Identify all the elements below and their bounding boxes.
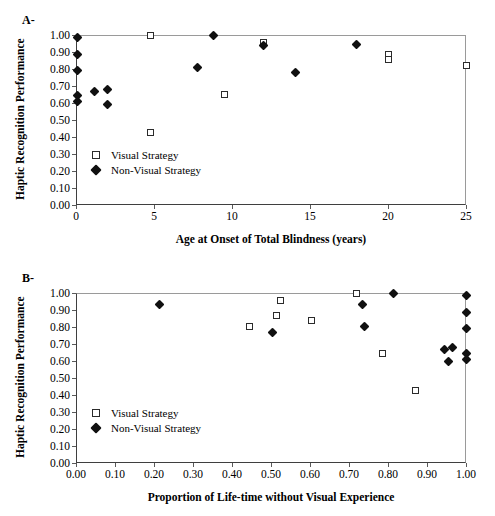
- x-tick-mark: [349, 463, 350, 467]
- x-tick-label: 1.00: [441, 469, 491, 480]
- y-tick-label: 0.20: [28, 166, 70, 176]
- panel-a: A- Haptic Recognition Performance 0.000.…: [0, 0, 495, 258]
- y-tick-mark: [72, 361, 76, 362]
- y-tick-mark: [72, 395, 76, 396]
- y-tick-mark: [72, 378, 76, 379]
- y-tick-mark: [72, 344, 76, 345]
- y-tick-label: 0.70: [28, 81, 70, 91]
- x-tick-mark: [154, 463, 155, 467]
- x-tick-label: 25: [441, 211, 491, 222]
- x-tick-label: 10: [207, 211, 257, 222]
- y-tick-label: 1.00: [28, 30, 70, 40]
- panel-a-plot-area: [76, 35, 466, 205]
- y-tick-mark: [72, 86, 76, 87]
- y-tick-label: 0.90: [28, 305, 70, 315]
- x-tick-label: 15: [285, 211, 335, 222]
- x-tick-mark: [310, 463, 311, 467]
- panel-a-x-axis-label: Age at Onset of Total Blindness (years): [76, 233, 466, 245]
- data-point-visual-strategy: [353, 290, 360, 297]
- y-tick-label: 0.60: [28, 98, 70, 108]
- data-point-visual-strategy: [308, 317, 315, 324]
- y-tick-mark: [72, 188, 76, 189]
- y-tick-mark: [72, 327, 76, 328]
- data-point-visual-strategy: [147, 129, 154, 136]
- x-tick-mark: [232, 463, 233, 467]
- x-tick-mark: [76, 463, 77, 467]
- x-tick-label: 0: [51, 211, 101, 222]
- data-point-visual-strategy: [246, 323, 253, 330]
- x-tick-mark: [466, 463, 467, 467]
- x-tick-label: 20: [363, 211, 413, 222]
- legend-label: Visual Strategy: [111, 148, 178, 163]
- data-point-visual-strategy: [273, 312, 280, 319]
- x-tick-mark: [154, 205, 155, 209]
- legend-label: Non-Visual Strategy: [111, 421, 201, 436]
- y-tick-mark: [72, 429, 76, 430]
- y-tick-mark: [72, 171, 76, 172]
- y-tick-label: 0.30: [28, 149, 70, 159]
- y-tick-mark: [72, 412, 76, 413]
- x-tick-mark: [76, 205, 77, 209]
- filled-diamond-icon: [92, 166, 100, 174]
- y-tick-label: 0.40: [28, 390, 70, 400]
- y-tick-label: 0.70: [28, 339, 70, 349]
- y-tick-mark: [72, 120, 76, 121]
- data-point-visual-strategy: [277, 297, 284, 304]
- y-tick-mark: [72, 310, 76, 311]
- data-point-visual-strategy: [385, 56, 392, 63]
- y-tick-label: 0.10: [28, 183, 70, 193]
- panel-b-x-axis-label: Proportion of Life-time without Visual E…: [76, 491, 466, 503]
- y-tick-label: 0.50: [28, 115, 70, 125]
- y-tick-mark: [72, 137, 76, 138]
- y-tick-label: 0.10: [28, 441, 70, 451]
- y-tick-label: 0.80: [28, 322, 70, 332]
- open-square-icon: [92, 409, 100, 417]
- y-tick-label: 0.30: [28, 407, 70, 417]
- x-tick-mark: [115, 463, 116, 467]
- x-tick-mark: [388, 463, 389, 467]
- panel-b-y-axis-label: Haptic Recognition Performance: [14, 296, 26, 458]
- data-point-visual-strategy: [463, 62, 470, 69]
- data-point-visual-strategy: [412, 387, 419, 394]
- y-tick-mark: [72, 154, 76, 155]
- data-point-visual-strategy: [221, 91, 228, 98]
- data-point-visual-strategy: [379, 350, 386, 357]
- y-tick-label: 0.20: [28, 424, 70, 434]
- y-tick-label: 0.00: [28, 458, 70, 468]
- open-square-icon: [92, 151, 100, 159]
- panel-b: B- Haptic Recognition Performance 0.000.…: [0, 258, 495, 516]
- y-tick-mark: [72, 293, 76, 294]
- data-point-visual-strategy: [147, 32, 154, 39]
- y-tick-label: 0.80: [28, 64, 70, 74]
- y-tick-label: 0.00: [28, 200, 70, 210]
- x-tick-label: 5: [129, 211, 179, 222]
- legend-label: Visual Strategy: [111, 406, 178, 421]
- panel-b-letter: B-: [22, 271, 34, 286]
- x-tick-mark: [466, 205, 467, 209]
- panel-b-plot-area: [76, 293, 466, 463]
- filled-diamond-icon: [92, 424, 100, 432]
- x-tick-mark: [388, 205, 389, 209]
- x-tick-mark: [271, 463, 272, 467]
- y-tick-label: 1.00: [28, 288, 70, 298]
- y-tick-label: 0.40: [28, 132, 70, 142]
- y-tick-label: 0.50: [28, 373, 70, 383]
- x-tick-mark: [427, 463, 428, 467]
- y-tick-label: 0.90: [28, 47, 70, 57]
- x-tick-mark: [310, 205, 311, 209]
- x-tick-mark: [193, 463, 194, 467]
- legend-label: Non-Visual Strategy: [111, 163, 201, 178]
- y-tick-mark: [72, 446, 76, 447]
- y-tick-label: 0.60: [28, 356, 70, 366]
- panel-a-y-axis-label: Haptic Recognition Performance: [14, 38, 26, 200]
- panel-a-letter: A-: [22, 13, 35, 28]
- x-tick-mark: [232, 205, 233, 209]
